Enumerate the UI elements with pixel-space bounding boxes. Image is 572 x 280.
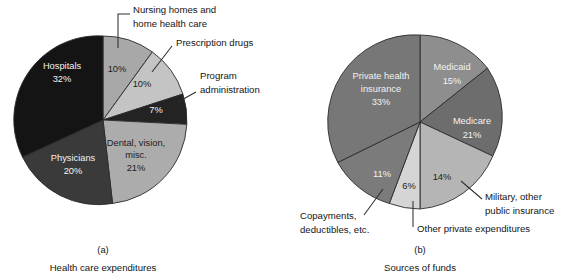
label-nursing-value: 10% — [108, 64, 127, 74]
panel-a-title: Health care expenditures — [50, 262, 157, 273]
callout-military-line2: public insurance — [485, 205, 554, 216]
panel-health-care-expenditures: Hospitals 32% Physicians 20% Dental, vis… — [0, 0, 286, 280]
label-physicians-name: Physicians — [51, 153, 96, 163]
label-private-health-line2: insurance — [361, 84, 401, 94]
label-prescription-value: 10% — [133, 79, 152, 89]
label-medicaid-value: 15% — [443, 76, 462, 86]
panel-b-title: Sources of funds — [384, 262, 456, 273]
panel-sources-of-funds: Medicaid 15% Medicare 21% Private health… — [286, 0, 572, 280]
label-medicaid-name: Medicaid — [433, 62, 470, 72]
label-hospitals-name: Hospitals — [43, 61, 82, 71]
panel-a-letter: (a) — [97, 245, 108, 255]
panel-b-letter: (b) — [414, 245, 425, 255]
callout-program-line2: administration — [200, 84, 260, 95]
pie-a-svg: Hospitals 32% Physicians 20% Dental, vis… — [0, 0, 286, 280]
callout-copayments-line1: Copayments, — [300, 210, 357, 221]
callout-military-line1: Military, other — [485, 191, 543, 202]
label-private-health-value: 33% — [372, 97, 391, 107]
callout-program-line1: Program — [200, 70, 237, 81]
callout-copayments-line2: deductibles, etc. — [300, 224, 369, 235]
label-medicare-name: Medicare — [453, 116, 491, 126]
callout-nursing-line1: Nursing homes and — [133, 4, 216, 15]
label-physicians-value: 20% — [64, 166, 83, 176]
label-medicare-value: 21% — [463, 130, 482, 140]
label-military-value: 14% — [433, 172, 452, 182]
pie-b-svg: Medicaid 15% Medicare 21% Private health… — [286, 0, 572, 280]
callout-nursing-line2: home health care — [133, 18, 207, 29]
label-dental-line1: Dental, vision, — [107, 138, 165, 148]
label-program-value: 7% — [149, 105, 162, 115]
label-dental-value: 21% — [127, 163, 146, 173]
label-private-health-line1: Private health — [353, 71, 410, 81]
label-copayments-value: 11% — [373, 169, 391, 179]
label-hospitals-value: 32% — [53, 74, 72, 84]
pie-chart-figure: Hospitals 32% Physicians 20% Dental, vis… — [0, 0, 572, 280]
callout-other-private-expenditures: Other private expenditures — [417, 223, 530, 234]
label-other-private-value: 6% — [402, 181, 415, 191]
label-dental-line2: misc. — [125, 150, 147, 160]
callout-prescription-drugs: Prescription drugs — [176, 37, 254, 48]
slice-dental-vision-misc[interactable] — [103, 120, 187, 203]
